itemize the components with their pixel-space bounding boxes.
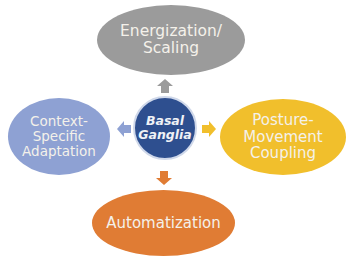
arrow-down-icon	[156, 171, 172, 185]
node-label: Automatization	[106, 215, 220, 232]
arrow-right-icon	[202, 121, 216, 137]
node-basal-ganglia: Basal Ganglia	[133, 96, 197, 160]
node-posture-movement-coupling: Posture- Movement Coupling	[220, 99, 346, 175]
node-automatization: Automatization	[92, 190, 235, 256]
node-label: Context- Specific Adaptation	[22, 114, 96, 159]
arrow-up-icon	[157, 79, 173, 93]
arrow-left-icon	[117, 121, 131, 137]
node-label: Posture- Movement Coupling	[243, 112, 322, 162]
node-energization-scaling: Energization/ Scaling	[97, 5, 245, 75]
node-context-specific-adaptation: Context- Specific Adaptation	[8, 98, 110, 175]
center-label: Basal Ganglia	[138, 114, 192, 142]
node-label: Energization/ Scaling	[120, 23, 222, 58]
